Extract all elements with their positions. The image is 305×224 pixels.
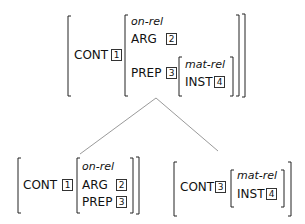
top-outer-left-bracket: [68, 16, 71, 96]
bl-arg-label: ARG: [82, 178, 108, 192]
top-prep-type-label: mat-rel: [185, 58, 225, 72]
br-matrel-right-bracket: [281, 170, 284, 207]
top-prep-tag: 3: [166, 67, 177, 79]
feature-structure-tree: CONT 1 on-rel ARG 2 PREP 3 mat-rel INST …: [0, 0, 305, 224]
bl-onrel-right-bracket: [130, 158, 133, 213]
bl-onrel-left-bracket: [77, 158, 80, 213]
top-cont-label: CONT: [74, 48, 108, 62]
bl-prep-tag: 3: [116, 196, 127, 208]
br-type-label: mat-rel: [237, 169, 277, 183]
bl-type-label: on-rel: [82, 160, 114, 174]
top-outer-right-bracket: [242, 14, 245, 97]
top-matrel-left-bracket: [179, 57, 182, 96]
br-cont-tag: 3: [215, 181, 226, 193]
right-branch-line: [156, 98, 218, 151]
top-cont-tag: 1: [111, 49, 122, 61]
top-matrel-right-bracket: [230, 57, 233, 96]
top-type-label: on-rel: [131, 15, 163, 29]
left-branch-line: [80, 98, 156, 154]
bl-cont-label: CONT: [23, 178, 57, 192]
top-onrel-left-bracket: [125, 15, 128, 96]
bl-arg-tag: 2: [116, 179, 127, 191]
bl-outer-right-bracket: [136, 157, 139, 214]
bl-outer-left-bracket: [18, 158, 21, 213]
top-inst-tag: 4: [214, 76, 225, 88]
top-arg-tag: 2: [166, 33, 177, 45]
br-outer-left-bracket: [174, 162, 177, 216]
br-outer-right-bracket: [288, 162, 291, 216]
br-inst-tag: 4: [266, 188, 277, 200]
top-onrel-right-bracket: [236, 15, 239, 96]
br-matrel-left-bracket: [231, 170, 234, 207]
top-arg-label: ARG: [131, 32, 157, 46]
top-prep-label: PREP: [131, 66, 161, 80]
bl-cont-tag: 1: [62, 179, 73, 191]
bl-prep-label: PREP: [82, 195, 112, 209]
top-inst-label: INST: [185, 75, 212, 89]
br-cont-label: CONT: [180, 180, 214, 194]
br-inst-label: INST: [237, 187, 264, 201]
